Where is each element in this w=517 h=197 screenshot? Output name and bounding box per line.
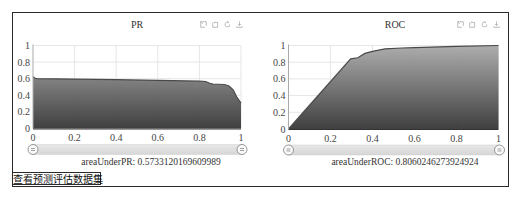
x-tick-label: 0.8 [450,133,463,144]
data-zoom-slider[interactable] [28,145,247,155]
roc-area [289,46,499,130]
x-tick-label: 0.8 [193,132,206,143]
save-as-image-icon[interactable] [236,21,243,28]
slider-handle-start[interactable] [284,145,294,155]
slider-track[interactable] [289,145,500,155]
y-tick-label: 0 [281,124,286,135]
restore-icon[interactable] [224,21,231,28]
x-tick-label: 0.2 [68,132,81,143]
pr-area [33,77,241,129]
slider-track[interactable] [33,145,242,155]
x-tick-label: 0 [31,132,36,143]
x-tick-label: 1 [239,132,244,143]
data-zoom-icon[interactable] [200,21,207,28]
y-tick-label: 0 [25,123,30,134]
pr-chart[interactable]: 00.20.40.60.8100.20.40.60.81 [12,12,260,172]
y-tick-label: 1 [281,40,286,51]
save-as-image-icon[interactable] [493,21,500,28]
data-zoom-slider[interactable] [284,145,505,155]
x-tick-label: 0.4 [110,132,123,143]
data-zoom-back-icon[interactable] [212,21,219,28]
x-tick-label: 0.6 [152,132,165,143]
y-tick-label: 0.8 [18,57,31,68]
x-tick-label: 0.6 [408,133,421,144]
area-under-pr-label: areaUnderPR: 0.5733120169609989 [81,157,220,168]
pr-chart-toolbox [200,21,243,28]
roc-chart-panel: 00.20.40.60.8100.20.40.60.81 ROC areaUnd… [260,12,509,172]
x-tick-label: 0.2 [324,133,337,144]
slider-handle-start[interactable] [28,145,38,155]
x-tick-label: 0.4 [366,133,379,144]
y-tick-label: 0.6 [273,73,286,84]
restore-icon[interactable] [481,21,488,28]
y-tick-label: 0.2 [18,106,31,117]
data-zoom-back-icon[interactable] [469,21,476,28]
x-tick-label: 0 [286,133,291,144]
roc-chart[interactable]: 00.20.40.60.8100.20.40.60.81 [260,12,509,172]
pr-chart-title: PR [131,19,143,31]
y-tick-label: 0.8 [273,57,286,68]
view-prediction-dataset-button[interactable]: 查看预测评估数据集 [12,172,101,185]
y-tick-label: 0.2 [273,107,286,118]
pr-chart-panel: 00.20.40.60.8100.20.40.60.81 PR areaUnde… [12,12,260,172]
slider-handle-end[interactable] [495,145,505,155]
slider-handle-end[interactable] [237,145,247,155]
roc-chart-title: ROC [385,19,406,31]
roc-chart-toolbox [457,21,500,28]
y-tick-label: 0.6 [18,73,31,84]
y-tick-label: 1 [25,40,30,51]
x-tick-label: 1 [496,133,501,144]
data-zoom-icon[interactable] [457,21,464,28]
area-under-roc-label: areaUnderROC: 0.8060246273924924 [331,157,478,168]
y-tick-label: 0.4 [18,90,31,101]
y-tick-label: 0.4 [273,90,286,101]
